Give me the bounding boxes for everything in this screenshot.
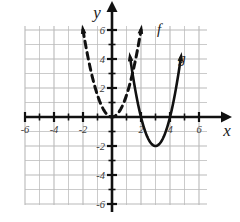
y-tick-label: 2	[100, 83, 106, 94]
y-tick-label: -6	[96, 199, 105, 210]
x-tick-label: -2	[79, 124, 88, 135]
x-tick-label: 6	[196, 124, 202, 135]
cartesian-plot: -6-4-2246642-2-4-6 y x f g	[0, 0, 240, 222]
y-tick-label: -4	[96, 170, 105, 181]
graph-figure: -6-4-2246642-2-4-6 y x f g	[0, 0, 240, 222]
x-tick-label: -4	[50, 124, 59, 135]
x-tick-label: -6	[21, 124, 30, 135]
curve-label-g: g	[178, 50, 186, 66]
y-tick-label: 6	[100, 25, 106, 36]
y-tick-label: 4	[100, 54, 106, 65]
x-axis-label: x	[222, 121, 231, 140]
y-axis-label: y	[91, 3, 101, 22]
y-tick-label: -2	[96, 141, 105, 152]
